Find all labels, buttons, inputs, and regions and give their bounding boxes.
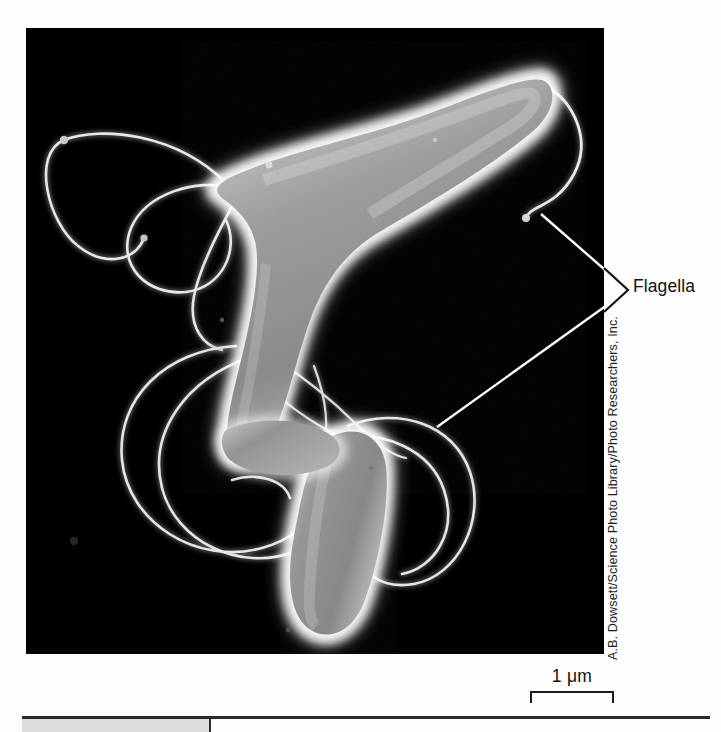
scale-bar-label: 1 μm xyxy=(524,666,620,687)
photo-credit: A.B. Dowsett/Science Photo Library/Photo… xyxy=(606,300,624,660)
figure-page: Flagella A.B. Dowsett/Science Photo Libr… xyxy=(0,0,721,732)
flagella-label: Flagella xyxy=(633,276,695,297)
footer-tab-divider xyxy=(209,716,211,732)
scale-bar: 1 μm xyxy=(524,666,620,703)
micrograph-plate xyxy=(26,28,604,654)
scale-bar-bracket xyxy=(530,691,614,703)
footer-tab-block xyxy=(22,719,210,732)
micrograph-image xyxy=(26,28,604,654)
